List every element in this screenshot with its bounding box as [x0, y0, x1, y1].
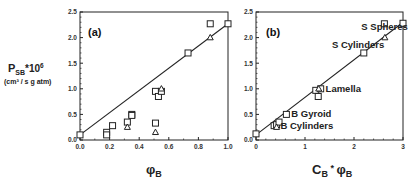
- x-label-a-sub: B: [155, 169, 162, 179]
- square-point: [152, 120, 158, 126]
- panel-a: 0.00.51.01.52.02.50.00.20.40.60.81.0 (a)…: [4, 8, 233, 179]
- y-tick-label: 0.0: [244, 136, 253, 143]
- x-axis-label-b: CB * φB: [312, 162, 353, 179]
- y-tick-label: 1.0: [244, 85, 253, 92]
- y-tick-label: 0.5: [244, 111, 253, 118]
- square-point: [253, 131, 259, 137]
- square-point: [77, 132, 83, 138]
- x-tick-label: 2: [352, 143, 356, 150]
- panel-b: 0.00.51.01.52.02.50123 S SpheresS Cylind…: [244, 8, 408, 179]
- annotation-label: S Spheres: [361, 21, 407, 32]
- square-point: [104, 132, 110, 138]
- y-axis-label: PSB*106: [8, 62, 44, 76]
- annotations-b: S SpheresS CylindersLamellaB GyroidB Cyl…: [281, 21, 408, 131]
- x-tick-label: 3: [401, 143, 405, 150]
- x-label-b-phi-sub: B: [346, 169, 353, 179]
- y-label-main: P: [8, 62, 15, 74]
- figure: 0.00.51.01.52.02.50.00.20.40.60.81.0 (a)…: [0, 0, 411, 184]
- y-tick-label: 2.5: [244, 8, 253, 15]
- y-tick-label: 1.5: [244, 60, 253, 67]
- square-point: [315, 93, 321, 99]
- y-tick-label: 2.0: [244, 34, 253, 41]
- x-label-a-main: φ: [146, 162, 155, 177]
- annotation-label: B Cylinders: [281, 120, 334, 131]
- y-label-mult: *10: [25, 63, 40, 74]
- x-tick-label: 0.2: [105, 143, 114, 150]
- x-axis-label-a: φB: [146, 162, 162, 179]
- y-tick-label: 0.5: [68, 111, 77, 118]
- y-tick-label: 1.0: [68, 85, 77, 92]
- y-tick-label: 2.5: [68, 8, 77, 15]
- x-tick-label: 0.4: [135, 143, 144, 150]
- panel-label-b: (b): [266, 26, 280, 38]
- square-point: [185, 50, 191, 56]
- annotation-label: Lamella: [326, 83, 362, 94]
- x-tick-label: 1: [303, 143, 307, 150]
- square-point: [283, 111, 289, 117]
- x-tick-label: 0: [254, 143, 258, 150]
- y-label-exp: 6: [40, 62, 44, 69]
- x-tick-label: 0.8: [194, 143, 203, 150]
- fit-line-a: [80, 24, 228, 135]
- square-point: [207, 21, 213, 27]
- square-point: [225, 21, 231, 27]
- y-axis-units: (cm³ / s g atm): [4, 78, 51, 86]
- y-tick-label: 2.0: [68, 34, 77, 41]
- x-label-b-star: *: [328, 163, 337, 173]
- annotation-label: B Gyroid: [291, 108, 331, 119]
- fit-line: [80, 24, 228, 135]
- square-point: [110, 123, 116, 129]
- y-tick-label: 1.5: [68, 60, 77, 67]
- panel-label-a: (a): [88, 26, 102, 38]
- x-tick-label: 0.6: [164, 143, 173, 150]
- square-point: [361, 50, 367, 56]
- x-label-b-phi: φ: [336, 162, 345, 177]
- x-tick-label: 1.0: [223, 143, 232, 150]
- x-tick-label: 0.0: [75, 143, 84, 150]
- triangle-point: [152, 129, 158, 134]
- square-point: [129, 112, 135, 118]
- annotation-label: S Cylinders: [332, 39, 384, 50]
- y-label-sub: SB: [15, 69, 25, 76]
